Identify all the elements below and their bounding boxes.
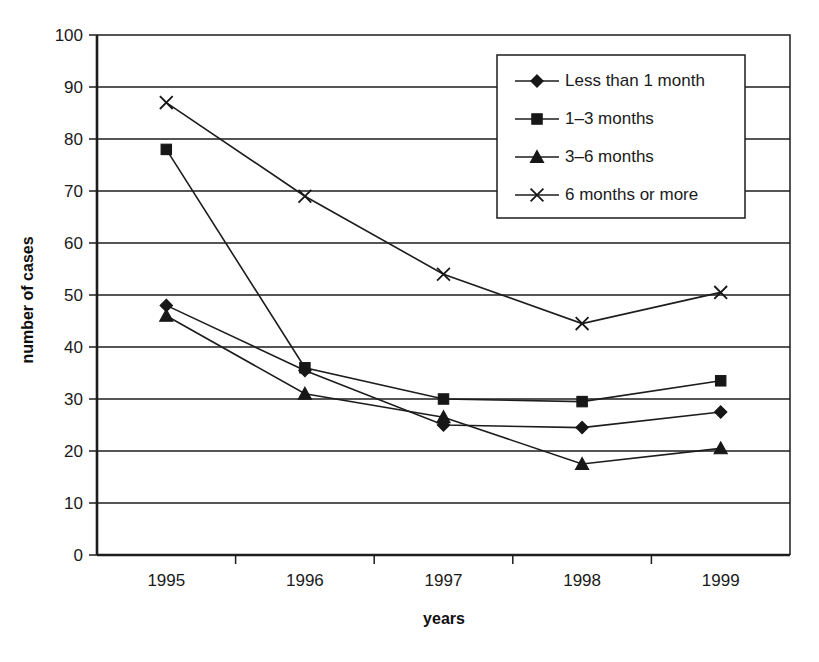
y-tick-label: 50	[64, 286, 83, 305]
line-chart-figure: 0102030405060708090100 19951996199719981…	[0, 0, 819, 662]
y-tick-label: 60	[64, 234, 83, 253]
legend-marker-square-icon	[532, 114, 542, 124]
data-point-marker	[714, 286, 727, 299]
x-tick-label: 1999	[702, 571, 740, 590]
chart-canvas: 0102030405060708090100 19951996199719981…	[0, 0, 819, 662]
y-tick-label: 100	[55, 26, 83, 45]
legend-label: 1–3 months	[565, 109, 654, 128]
data-point-marker	[300, 363, 310, 373]
series-line	[166, 305, 720, 427]
legend-label: 6 months or more	[565, 185, 698, 204]
legend-label: Less than 1 month	[565, 71, 705, 90]
data-series	[160, 309, 728, 469]
y-tick-label: 90	[64, 78, 83, 97]
data-point-marker	[576, 317, 589, 330]
series-line	[166, 316, 720, 464]
y-tick-label: 20	[64, 442, 83, 461]
y-tick-label: 30	[64, 390, 83, 409]
y-tick-label: 70	[64, 182, 83, 201]
figure-caption	[48, 648, 468, 662]
chart-legend: Less than 1 month1–3 months3–6 months6 m…	[497, 55, 745, 218]
x-tick-mark-group	[236, 555, 652, 564]
data-point-marker	[715, 406, 727, 418]
data-point-marker	[438, 394, 448, 404]
legend-label: 3–6 months	[565, 147, 654, 166]
y-tick-label: 0	[74, 546, 83, 565]
data-point-marker	[161, 144, 171, 154]
data-point-marker	[714, 442, 727, 454]
x-tick-label: 1998	[563, 571, 601, 590]
y-tick-label: 10	[64, 494, 83, 513]
data-point-marker	[437, 268, 450, 281]
x-tick-label: 1997	[425, 571, 463, 590]
data-point-marker	[576, 421, 588, 433]
x-tick-label-group: 19951996199719981999	[147, 571, 739, 590]
data-point-marker	[716, 376, 726, 386]
y-axis-title: number of cases	[19, 236, 36, 363]
y-tick-label: 80	[64, 130, 83, 149]
data-point-marker	[298, 387, 311, 399]
y-tick-label-group: 0102030405060708090100	[55, 26, 83, 565]
y-tick-label: 40	[64, 338, 83, 357]
x-tick-label: 1996	[286, 571, 324, 590]
data-point-marker	[160, 309, 173, 321]
data-point-marker	[299, 190, 312, 203]
x-tick-label: 1995	[147, 571, 185, 590]
x-axis-title: years	[423, 610, 465, 627]
data-point-marker	[577, 396, 587, 406]
data-point-marker	[160, 96, 173, 109]
